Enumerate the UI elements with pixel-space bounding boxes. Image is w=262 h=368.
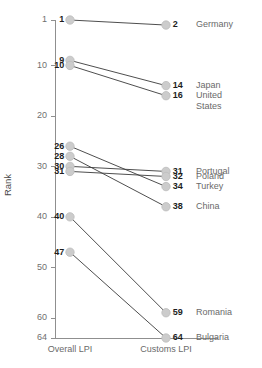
slope-chart-canvas: 110203040506064 129141016303131322634283…: [0, 0, 262, 368]
data-point-right[interactable]: [162, 21, 170, 29]
left-value-label: 40: [54, 211, 64, 221]
data-point-left[interactable]: [66, 16, 74, 24]
y-tick-label: 60: [37, 312, 47, 322]
slope-line: [70, 60, 166, 85]
country-label: Germany: [196, 19, 234, 29]
y-tick-label: 20: [37, 110, 47, 120]
data-point-right[interactable]: [162, 182, 170, 190]
left-value-label: 26: [54, 141, 64, 151]
country-label: Japan: [196, 80, 221, 90]
slope-line: [70, 20, 166, 25]
x-axis-label-left: Overall LPI: [48, 344, 93, 354]
data-point-left[interactable]: [66, 142, 74, 150]
left-value-label: 1: [59, 14, 64, 24]
country-label: Turkey: [196, 181, 224, 191]
country-label: Poland: [196, 171, 224, 181]
right-value-label: 16: [173, 90, 183, 100]
right-value-label: 14: [173, 80, 183, 90]
y-axis: 110203040506064: [37, 14, 56, 342]
y-tick-label: 64: [37, 332, 47, 342]
slope-lines: [70, 20, 166, 338]
left-value-label: 31: [54, 166, 64, 176]
y-tick-label: 40: [37, 211, 47, 221]
country-label: Bulgaria: [196, 332, 229, 342]
data-point-right[interactable]: [162, 309, 170, 317]
left-value-label: 28: [54, 151, 64, 161]
data-point-left[interactable]: [66, 61, 74, 69]
left-value-label: 10: [54, 60, 64, 70]
data-point-right[interactable]: [162, 92, 170, 100]
data-point-right[interactable]: [162, 81, 170, 89]
slope-line: [70, 156, 166, 206]
data-point-right[interactable]: [162, 334, 170, 342]
right-value-label: 38: [173, 201, 183, 211]
data-point-right[interactable]: [162, 172, 170, 180]
right-value-label: 34: [173, 181, 183, 191]
slope-line: [70, 146, 166, 186]
data-point-left[interactable]: [66, 152, 74, 160]
data-point-dots: [66, 16, 170, 342]
data-point-left[interactable]: [66, 167, 74, 175]
data-point-right[interactable]: [162, 203, 170, 211]
right-value-label: 32: [173, 171, 183, 181]
y-tick-label: 30: [37, 161, 47, 171]
country-label: United: [196, 90, 222, 100]
right-value-label: 64: [173, 332, 183, 342]
y-tick-label: 1: [42, 14, 47, 24]
data-point-left[interactable]: [66, 248, 74, 256]
y-tick-label: 50: [37, 262, 47, 272]
y-axis-title: Rank: [2, 174, 13, 196]
left-value-label: 47: [54, 247, 64, 257]
right-value-label: 2: [173, 19, 178, 29]
country-label: Romania: [196, 307, 232, 317]
right-value-label: 59: [173, 307, 183, 317]
country-label: States: [196, 101, 222, 111]
country-label: China: [196, 201, 220, 211]
slope-line: [70, 65, 166, 95]
slope-line: [70, 166, 166, 171]
x-axis-label-right: Customs LPI: [140, 344, 192, 354]
slope-line: [70, 171, 166, 176]
y-tick-label: 10: [37, 60, 47, 70]
slope-chart: 110203040506064 129141016303131322634283…: [0, 0, 262, 368]
data-point-left[interactable]: [66, 213, 74, 221]
